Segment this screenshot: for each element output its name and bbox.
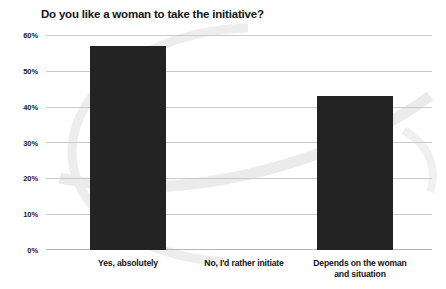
ytick-label-10: 10%: [4, 210, 38, 219]
ytick-label-50: 50%: [4, 67, 38, 76]
chart-figure: Do you like a woman to take the initiati…: [0, 0, 446, 289]
ytick-label-30: 30%: [4, 139, 38, 148]
ytick-label-20: 20%: [4, 174, 38, 183]
chart-title: Do you like a woman to take the initiati…: [41, 8, 264, 20]
category-label-no-id-rather-initiate: No, I'd rather initiate: [183, 258, 305, 269]
ytick-label-40: 40%: [4, 103, 38, 112]
ytick-label-0: 0%: [4, 246, 38, 255]
gridline-60: [46, 35, 432, 36]
category-label-depends-on-woman-and-situation: Depends on the woman and situation: [305, 258, 415, 280]
bar-depends-on-woman-and-situation: [317, 96, 393, 250]
bar-yes-absolutely: [90, 46, 166, 250]
category-label-yes-absolutely: Yes, absolutely: [82, 258, 174, 269]
plot-area: [46, 35, 432, 250]
ytick-label-60: 60%: [4, 31, 38, 40]
